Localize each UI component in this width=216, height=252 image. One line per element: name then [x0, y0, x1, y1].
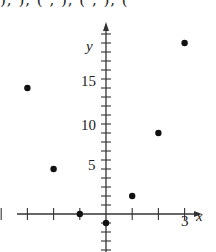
data-point	[24, 85, 30, 91]
x-tick-label-3: 3	[181, 213, 189, 229]
tick-marks	[1, 34, 184, 250]
y-axis-arrow-icon	[103, 22, 109, 31]
y-axis-label: y	[84, 38, 93, 54]
data-point	[103, 220, 109, 226]
data-point	[50, 166, 56, 172]
y-tick-label-15: 15	[81, 73, 96, 89]
axes	[17, 22, 202, 252]
data-point	[129, 193, 135, 199]
data-point	[77, 211, 83, 217]
y-tick-label-10: 10	[81, 117, 96, 133]
data-point	[181, 40, 187, 46]
x-axis-label: x	[195, 208, 203, 224]
y-tick-label-5: 5	[88, 157, 96, 173]
data-point	[155, 130, 161, 136]
scatter-plot: y x 3 5 10 15	[0, 0, 216, 252]
